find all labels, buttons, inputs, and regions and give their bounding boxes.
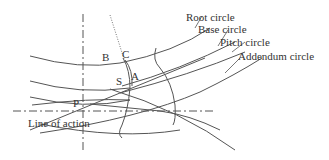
tooth-profile-left [120, 58, 131, 138]
point-A-label: A [131, 70, 139, 82]
pitch-circle-label: Pitch circle [220, 36, 270, 48]
root-circle-label: Root circle [186, 11, 235, 23]
line-of-action-label: Line of action [28, 117, 90, 129]
point-S-label: S [116, 75, 122, 87]
lower-circle-1 [30, 81, 130, 90]
point-P-label: P [73, 97, 79, 109]
addendum-circle-label: Addendum circle [238, 50, 314, 62]
gear-diagram: Root circle Base circle Pitch circle Add… [0, 0, 329, 160]
base-circle-label: Base circle [198, 23, 247, 35]
point-B-label: B [102, 51, 109, 63]
point-C-label: C [122, 48, 129, 60]
